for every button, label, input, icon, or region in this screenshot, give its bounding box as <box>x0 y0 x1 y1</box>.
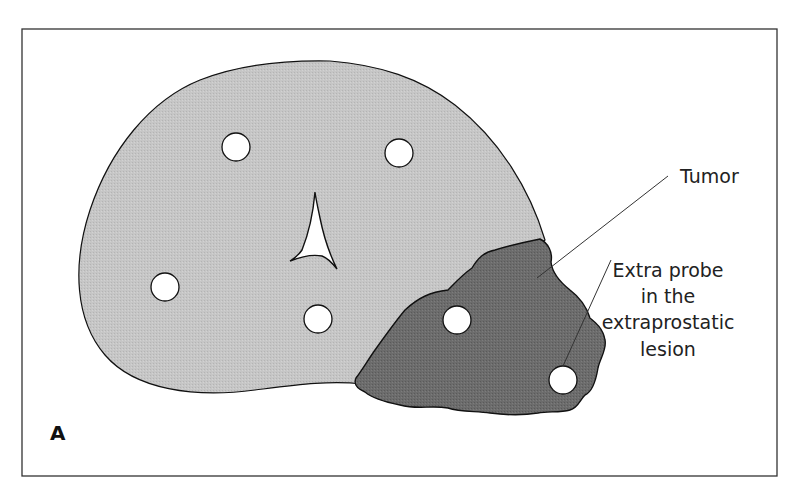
extra-probe-label-line4: lesion <box>640 338 696 360</box>
probe-upper-left <box>222 133 250 161</box>
probe-center <box>304 305 332 333</box>
panel-letter: A <box>50 421 66 445</box>
extra-probe-label-line2: in the <box>641 285 696 307</box>
probe-extra <box>549 366 577 394</box>
probe-left <box>151 273 179 301</box>
probe-upper-right <box>385 139 413 167</box>
tumor-label: Tumor <box>679 165 739 187</box>
extra-probe-label-line1: Extra probe <box>612 259 723 281</box>
extra-probe-label-line3: extraprostatic <box>602 311 735 333</box>
prostate-probe-diagram: Tumor Extra probe in the extraprostatic … <box>0 0 795 491</box>
probe-tumor <box>443 306 471 334</box>
